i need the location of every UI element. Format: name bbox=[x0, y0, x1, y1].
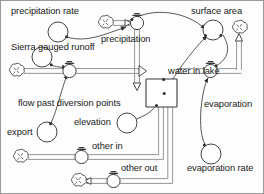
dot-stock-to-surface-out bbox=[163, 92, 166, 95]
dot-precip-rate-out bbox=[65, 35, 68, 38]
cloud-otherin-source bbox=[14, 149, 29, 162]
arrowhead-evaporation-to-cloud bbox=[235, 34, 242, 42]
label-evaporation: evaporation bbox=[204, 100, 252, 109]
dot-precipitation-to-surface-out bbox=[130, 18, 133, 21]
converter-elevation bbox=[117, 113, 137, 133]
dot-sierra-runoff-out bbox=[50, 63, 53, 66]
cloud-precipitation-source bbox=[99, 15, 114, 28]
dot-stock-top bbox=[162, 78, 165, 81]
valve-flow-past-diversion-points bbox=[63, 62, 76, 78]
dot-stock-to-elevation-out bbox=[155, 104, 158, 107]
dot-export-out bbox=[49, 122, 52, 125]
converter-surface-area bbox=[203, 20, 223, 40]
label-elevation: elevation bbox=[74, 118, 111, 127]
label-export: export bbox=[7, 128, 33, 137]
label-sierra-gauged-runoff: Sierra gauged runoff bbox=[11, 43, 95, 52]
valve-other-out bbox=[107, 172, 120, 188]
label-other-in: other in bbox=[92, 142, 123, 151]
dot-surface-area-to-evap-out bbox=[204, 34, 207, 37]
label-precipitation-rate: precipitation rate bbox=[11, 7, 79, 16]
dot-surface-area-side bbox=[219, 34, 222, 37]
arrowhead-flowpast-into-stock bbox=[139, 66, 147, 77]
valve-precipitation bbox=[130, 14, 143, 30]
diagram-canvas: precipitation rate precipitation Sierra … bbox=[0, 0, 264, 194]
link-evap-rate-to-evaporation bbox=[201, 78, 208, 144]
dot-evap-rate-out bbox=[203, 144, 206, 147]
label-water-in-lake: water in lake bbox=[168, 67, 220, 76]
stock-water-in-lake[interactable] bbox=[146, 79, 177, 107]
label-surface-area: surface area bbox=[191, 7, 242, 16]
cloud-evaporation-sink bbox=[233, 20, 248, 33]
label-flow-past-diversion-points: flow past diversion points bbox=[18, 99, 121, 108]
valve-other-in bbox=[75, 148, 88, 164]
cloud-otherout-sink bbox=[72, 173, 87, 186]
label-other-out: other out bbox=[121, 164, 157, 173]
cloud-flowpast-source bbox=[10, 63, 25, 76]
converter-export bbox=[37, 122, 57, 142]
converter-evaporation-rate bbox=[201, 144, 221, 164]
label-precipitation: precipitation bbox=[101, 35, 150, 44]
label-evaporation-rate: evaporation rate bbox=[187, 164, 253, 173]
converter-precipitation-rate bbox=[48, 22, 68, 42]
